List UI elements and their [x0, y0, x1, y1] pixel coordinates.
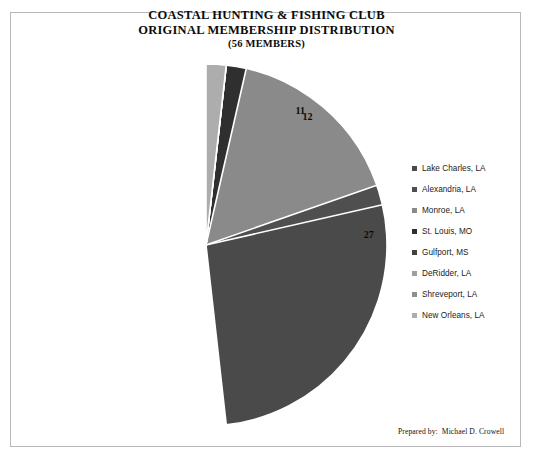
- legend-item[interactable]: Monroe, LA: [404, 200, 516, 221]
- legend-item-label: Alexandria, LA: [422, 185, 476, 194]
- chart-legend: Lake Charles, LAAlexandria, LAMonroe, LA…: [404, 158, 516, 326]
- legend-item-label: Gulfport, MS: [422, 248, 469, 257]
- legend-square-marker: [412, 208, 417, 213]
- legend-item[interactable]: DeRidder, LA: [404, 263, 516, 284]
- pie-slice-value-label: 27: [364, 229, 374, 240]
- footer-credit-text: Prepared by: Michael D. Crowell: [398, 427, 504, 436]
- pie-slice-value-label: 2: [224, 62, 229, 63]
- legend-item-label: Monroe, LA: [422, 206, 465, 215]
- legend-item-label: Lake Charles, LA: [422, 164, 486, 173]
- legend-square-marker: [412, 187, 417, 192]
- legend-item-label: St. Louis, MO: [422, 227, 472, 236]
- legend-square-marker: [412, 166, 417, 171]
- legend-item[interactable]: New Orleans, LA: [404, 305, 516, 326]
- legend-square-marker: [412, 292, 417, 297]
- legend-square-marker: [412, 229, 417, 234]
- pie-slice-group: [206, 64, 387, 425]
- legend-item-label: New Orleans, LA: [422, 311, 485, 320]
- legend-square-marker: [412, 250, 417, 255]
- legend-item[interactable]: Shreveport, LA: [404, 284, 516, 305]
- chart-title-block: COASTAL HUNTING & FISHING CLUB ORIGINAL …: [0, 8, 533, 50]
- legend-item[interactable]: Lake Charles, LA: [404, 158, 516, 179]
- legend-square-marker: [412, 271, 417, 276]
- legend-item[interactable]: Alexandria, LA: [404, 179, 516, 200]
- pie-chart-plot-area: 27121121111: [23, 62, 389, 428]
- chart-title-line-1: COASTAL HUNTING & FISHING CLUB: [0, 8, 533, 23]
- legend-item-label: Shreveport, LA: [422, 290, 477, 299]
- legend-item[interactable]: St. Louis, MO: [404, 221, 516, 242]
- chart-title-line-2: ORIGINAL MEMBERSHIP DISTRIBUTION: [0, 23, 533, 38]
- pie-chart-svg: 27121121111: [23, 62, 389, 428]
- legend-square-marker: [412, 313, 417, 318]
- legend-item-label: DeRidder, LA: [422, 269, 471, 278]
- pie-slice-value-label: 11: [296, 105, 305, 116]
- legend-item[interactable]: Gulfport, MS: [404, 242, 516, 263]
- chart-title-line-3: (56 MEMBERS): [0, 38, 533, 50]
